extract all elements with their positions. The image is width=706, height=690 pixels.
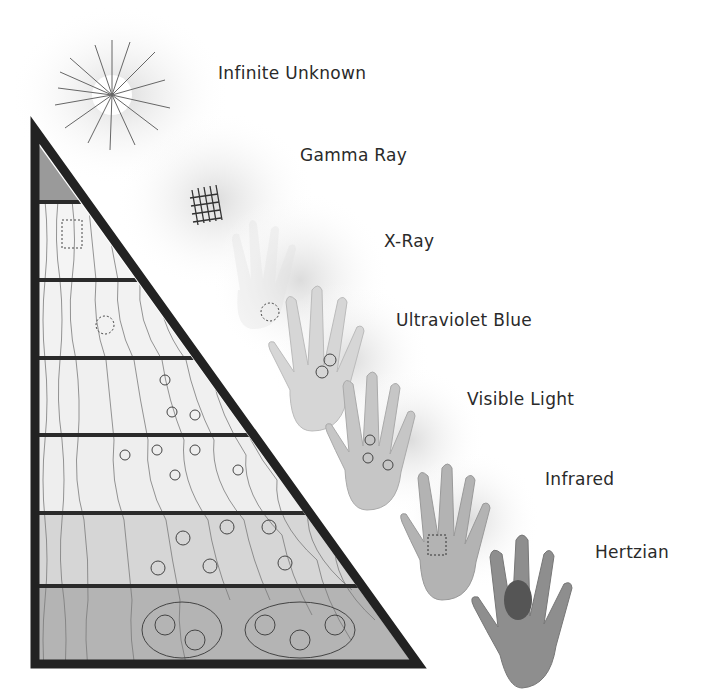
label-visible-light: Visible Light [467, 389, 574, 409]
label-infinite-unknown: Infinite Unknown [218, 63, 366, 83]
label-x-ray: X-Ray [384, 231, 434, 251]
spectrum-pyramid-illustration: Infinite Unknown Gamma Ray X-Ray Ultravi… [0, 0, 706, 690]
label-infrared: Infrared [545, 469, 614, 489]
label-hertzian: Hertzian [595, 542, 669, 562]
label-ultraviolet-blue: Ultraviolet Blue [396, 310, 532, 330]
label-gamma-ray: Gamma Ray [300, 145, 407, 165]
illustration-canvas [0, 0, 706, 690]
